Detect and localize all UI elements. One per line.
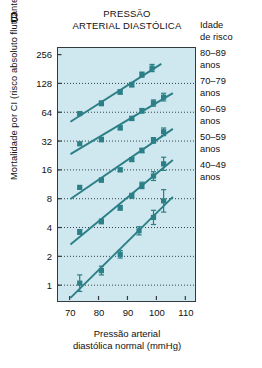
data-point-marker xyxy=(99,137,104,142)
y-axis-label-wrap: Mortalidade por CI (risco absoluto flutu… xyxy=(0,0,18,368)
x-tick-label: 80 xyxy=(84,307,114,318)
data-point-marker xyxy=(77,229,82,234)
legend-item-range: 80–89 xyxy=(200,48,260,60)
data-point-marker xyxy=(161,161,166,166)
y-tick-label: 16 xyxy=(18,164,52,175)
legend-item-range: 60–69 xyxy=(200,104,260,116)
data-point-marker xyxy=(151,100,156,105)
trend-line xyxy=(70,197,172,298)
x-tick-label: 100 xyxy=(142,307,172,318)
data-point-marker xyxy=(151,173,156,178)
data-point-marker xyxy=(118,167,123,172)
legend-title-line2: de risco xyxy=(200,32,260,44)
plot-area xyxy=(57,47,196,302)
legend-item-unit: anos xyxy=(200,60,260,72)
y-tick-label: 32 xyxy=(18,136,52,147)
legend-item: 80–89anos xyxy=(200,48,260,71)
chart-title: PRESSÃO ARTERIAL DIASTÓLICA xyxy=(56,8,198,31)
trend-line xyxy=(70,160,172,244)
data-point-marker xyxy=(77,111,82,116)
data-point-marker xyxy=(161,129,166,134)
data-point-marker xyxy=(129,157,134,162)
chart-title-line1: PRESSÃO xyxy=(56,8,198,20)
y-tick-label: 4 xyxy=(18,222,52,233)
data-series xyxy=(70,93,172,154)
y-tick-label: 2 xyxy=(18,251,52,262)
data-point-marker xyxy=(129,82,134,87)
legend-item-unit: anos xyxy=(200,88,260,100)
y-axis-label: Mortalidade por CI (risco absoluto flutu… xyxy=(9,0,19,180)
x-axis-label-line2: diastólica normal (mmHg) xyxy=(46,340,208,352)
legend-item-range: 70–79 xyxy=(200,76,260,88)
data-point-marker xyxy=(129,116,134,121)
legend-items: 80–89anos70–79anos60–69anos50–59anos40–4… xyxy=(200,48,260,183)
legend-item: 60–69anos xyxy=(200,104,260,127)
x-tick-label: 90 xyxy=(113,307,143,318)
data-point-marker xyxy=(151,215,156,220)
trend-line xyxy=(70,93,172,154)
data-point-marker xyxy=(77,185,82,190)
data-point-marker xyxy=(161,95,166,100)
data-point-marker xyxy=(139,183,144,188)
data-point-marker xyxy=(129,193,134,198)
x-tick-label: 110 xyxy=(171,307,201,318)
legend-item: 40–49anos xyxy=(200,160,260,183)
data-point-marker xyxy=(149,66,154,71)
y-tick-label: 8 xyxy=(18,193,52,204)
x-axis-label-line1: Pressão arterial xyxy=(46,328,208,340)
data-point-marker xyxy=(99,268,104,273)
y-tick-label: 256 xyxy=(18,49,52,60)
data-point-marker xyxy=(151,138,156,143)
data-point-marker xyxy=(99,219,104,224)
data-point-marker xyxy=(161,198,166,203)
figure-panel-b: B PRESSÃO ARTERIAL DIASTÓLICA Mortalidad… xyxy=(0,0,262,368)
data-point-marker xyxy=(118,205,123,210)
data-point-marker xyxy=(139,108,144,113)
legend-item-unit: anos xyxy=(200,144,260,156)
x-tick-label: 70 xyxy=(55,307,85,318)
x-axis-label: Pressão arterial diastólica normal (mmHg… xyxy=(46,328,208,352)
data-point-marker xyxy=(77,141,82,146)
legend-title-line1: Idade xyxy=(200,20,260,32)
legend: Idade de risco 80–89anos70–79anos60–69an… xyxy=(200,20,260,188)
legend-item: 70–79anos xyxy=(200,76,260,99)
y-tick-label: 128 xyxy=(18,78,52,89)
legend-item-range: 50–59 xyxy=(200,132,260,144)
data-series xyxy=(70,128,172,199)
data-point-marker xyxy=(136,228,141,233)
data-point-marker xyxy=(99,178,104,183)
data-point-marker xyxy=(77,281,82,286)
data-point-marker xyxy=(118,252,123,257)
trend-line xyxy=(70,64,161,122)
y-tick-label: 64 xyxy=(18,107,52,118)
legend-item: 50–59anos xyxy=(200,132,260,155)
chart-title-line2: ARTERIAL DIASTÓLICA xyxy=(56,20,198,32)
y-tick-label: 1 xyxy=(18,280,52,291)
trend-line xyxy=(70,129,172,199)
plot-svg xyxy=(58,48,194,300)
data-point-marker xyxy=(118,125,123,130)
data-point-marker xyxy=(139,148,144,153)
legend-item-unit: anos xyxy=(200,116,260,128)
data-point-marker xyxy=(118,89,123,94)
data-point-marker xyxy=(99,101,104,106)
legend-title: Idade de risco xyxy=(200,20,260,43)
data-point-marker xyxy=(139,72,144,77)
data-series xyxy=(70,64,161,122)
legend-item-unit: anos xyxy=(200,172,260,184)
legend-item-range: 40–49 xyxy=(200,160,260,172)
